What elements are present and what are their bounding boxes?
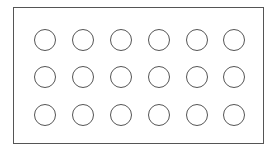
circle-r3-c2: [72, 104, 94, 126]
circle-r3-c4: [148, 104, 170, 126]
circle-r1-c1: [34, 29, 56, 51]
circle-r2-c1: [34, 66, 56, 88]
circle-r2-c5: [186, 66, 208, 88]
circle-r2-c2: [72, 66, 94, 88]
circle-r2-c4: [148, 66, 170, 88]
circle-r3-c5: [186, 104, 208, 126]
circle-r1-c5: [186, 29, 208, 51]
circle-r3-c1: [34, 104, 56, 126]
circle-r1-c2: [72, 29, 94, 51]
circle-r1-c4: [148, 29, 170, 51]
circle-r2-c6: [223, 66, 245, 88]
circle-r1-c6: [223, 29, 245, 51]
circle-r2-c3: [110, 66, 132, 88]
circle-r3-c3: [110, 104, 132, 126]
circle-r3-c6: [223, 104, 245, 126]
circle-r1-c3: [110, 29, 132, 51]
